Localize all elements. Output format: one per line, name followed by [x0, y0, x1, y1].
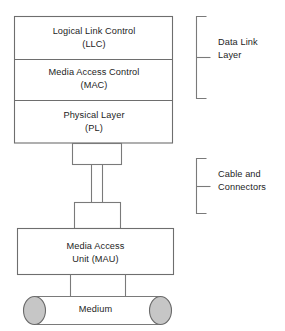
lower-connector-block [75, 203, 121, 229]
physical-layer-label: Physical Layer (PL) [15, 109, 173, 134]
mau-label: Media Access Unit (MAU) [18, 240, 173, 265]
mac-layer-label: Media Access Control (MAC) [15, 66, 173, 91]
diagram-canvas: Logical Link Control (LLC) Media Access … [0, 0, 285, 331]
data-link-layer-bracket-label: Data Link Layer [218, 36, 282, 61]
medium-label: Medium [18, 303, 173, 316]
upper-connector-block [73, 144, 122, 165]
llc-layer-label: Logical Link Control (LLC) [15, 25, 173, 50]
cable-and-connectors-bracket-label: Cable and Connectors [218, 168, 284, 193]
